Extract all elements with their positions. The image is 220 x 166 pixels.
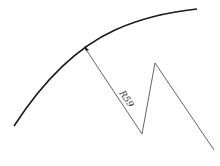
- dimension-leader-line: [85, 48, 142, 134]
- radius-label: R59: [117, 88, 136, 110]
- drawing-canvas: R59: [0, 0, 220, 166]
- arc-curve: [14, 9, 197, 126]
- zigzag-break-line: [142, 63, 214, 150]
